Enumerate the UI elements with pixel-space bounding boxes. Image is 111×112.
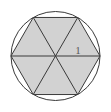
figure-canvas: 1 bbox=[0, 0, 111, 112]
side-length-label: 1 bbox=[75, 44, 81, 56]
figure-labels: 1 bbox=[75, 44, 81, 56]
geometry-figure: 1 bbox=[0, 0, 111, 112]
